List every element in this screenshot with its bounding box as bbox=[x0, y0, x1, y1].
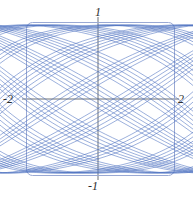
parametric-plot-figure: 1 -1 -2 2 bbox=[0, 0, 193, 199]
x-axis-tick-label-left: -2 bbox=[3, 93, 13, 105]
y-axis-tick-label-top: 1 bbox=[95, 6, 101, 18]
y-axis-tick-label-bottom: -1 bbox=[88, 180, 98, 192]
x-axis-tick-label-right: 2 bbox=[178, 93, 184, 105]
plot-canvas bbox=[0, 0, 193, 199]
